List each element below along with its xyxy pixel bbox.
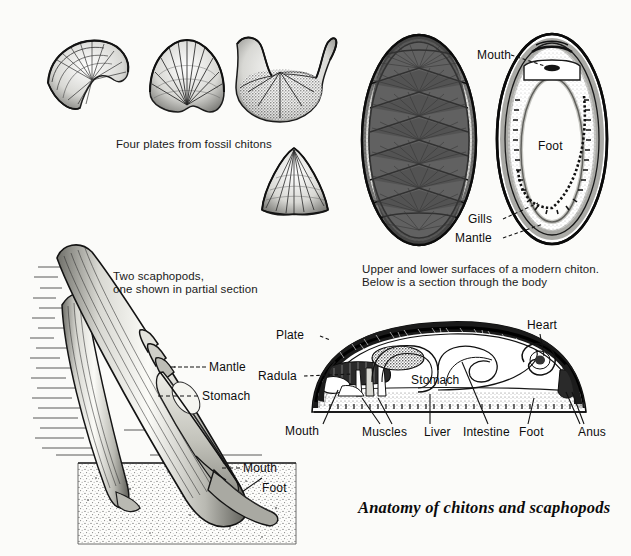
fossil-plate-butterfly xyxy=(236,38,336,122)
label-gills: Gills xyxy=(468,212,492,226)
label-heart: Heart xyxy=(527,318,557,332)
illustration-plate: Four plates from fossil chitons Two scap… xyxy=(0,0,631,556)
label-intestine: Intestine xyxy=(463,425,510,439)
label-mouth-scaphopod: Mouth xyxy=(243,461,277,475)
label-anus: Anus xyxy=(578,425,606,439)
label-stomach-scaphopod: Stomach xyxy=(202,389,250,403)
label-mantle-scaphopod: Mantle xyxy=(209,360,246,374)
caption-scaphopods-line2: one shown in partial section xyxy=(113,283,258,297)
fossil-plate-crescent xyxy=(48,41,128,109)
fossil-plate-conical xyxy=(262,148,328,215)
label-foot-scaphopod: Foot xyxy=(262,481,287,495)
label-foot-ventral: Foot xyxy=(538,139,563,153)
figure-title: Anatomy of chitons and scaphopods xyxy=(358,498,610,518)
leader-plate xyxy=(320,336,330,340)
label-foot-section: Foot xyxy=(519,425,544,439)
caption-modern-chiton-line1: Upper and lower surfaces of a modern chi… xyxy=(362,263,599,277)
chiton-dorsal-view xyxy=(362,35,476,245)
caption-scaphopods-line1: Two scaphopods, xyxy=(113,270,204,284)
label-stomach-section: Stomach xyxy=(411,373,459,387)
label-plate: Plate xyxy=(276,328,304,342)
label-mantle-ventral: Mantle xyxy=(455,231,492,245)
caption-modern-chiton-line2: Below is a section through the body xyxy=(362,276,547,290)
caption-fossil-plates: Four plates from fossil chitons xyxy=(116,138,272,152)
label-mouth-section: Mouth xyxy=(285,424,319,438)
label-muscles: Muscles xyxy=(362,425,407,439)
fossil-plate-fan xyxy=(150,39,224,112)
label-radula: Radula xyxy=(258,369,297,383)
label-liver: Liver xyxy=(424,425,451,439)
label-mouth-ventral: Mouth xyxy=(477,48,511,62)
chiton-section xyxy=(312,322,586,414)
